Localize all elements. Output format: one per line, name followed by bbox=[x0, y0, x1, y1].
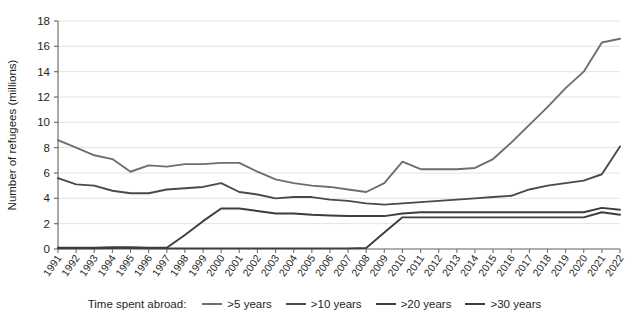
legend-entry-gt30[interactable]: >30 years bbox=[465, 298, 541, 310]
x-tick-label: 2021 bbox=[584, 252, 607, 278]
legend-entry-gt5[interactable]: >5 years bbox=[202, 298, 271, 310]
x-tick-label: 2019 bbox=[548, 252, 571, 278]
y-tick-label: 6 bbox=[44, 167, 50, 179]
x-tick-label: 2009 bbox=[367, 252, 390, 278]
x-tick-label: 2020 bbox=[566, 252, 589, 278]
x-tick-label: 1998 bbox=[167, 252, 190, 278]
x-tick-label: 1992 bbox=[59, 252, 82, 278]
x-tick-label: 1995 bbox=[113, 252, 136, 278]
x-tick-label: 2007 bbox=[330, 252, 353, 278]
legend-label-gt20: >20 years bbox=[401, 298, 452, 310]
y-tick-label: 10 bbox=[37, 116, 50, 128]
x-tick-label: 2010 bbox=[385, 252, 408, 278]
x-axis: 1991199219931994199519961997199819992000… bbox=[40, 249, 625, 278]
y-tick-label: 14 bbox=[37, 66, 50, 78]
legend-entry-gt10[interactable]: >10 years bbox=[286, 298, 362, 310]
x-tick-label: 2006 bbox=[312, 252, 335, 278]
y-axis-title-text: Number of refugees (millions) bbox=[6, 59, 18, 210]
x-tick-label: 2012 bbox=[421, 252, 444, 278]
x-tick-label: 2002 bbox=[240, 252, 263, 278]
y-tick-label: 12 bbox=[37, 91, 50, 103]
y-tick-label: 4 bbox=[44, 192, 51, 204]
chart-root: 024681012141618 199119921993199419951996… bbox=[0, 0, 629, 320]
series-line-20years bbox=[58, 208, 620, 248]
x-tick-label: 2013 bbox=[439, 252, 462, 278]
legend-swatch-gt20 bbox=[376, 303, 396, 305]
x-tick-label: 2011 bbox=[403, 252, 426, 278]
x-tick-label: 2018 bbox=[530, 252, 553, 278]
x-tick-label: 2016 bbox=[494, 252, 517, 278]
series-line-10years bbox=[58, 146, 620, 204]
y-axis: 024681012141618 bbox=[37, 15, 58, 255]
legend-label-gt5: >5 years bbox=[227, 298, 271, 310]
y-tick-label: 18 bbox=[37, 15, 50, 27]
x-tick-label: 1991 bbox=[40, 252, 63, 278]
series-lines bbox=[58, 39, 620, 249]
x-tick-label: 1994 bbox=[95, 252, 118, 278]
x-tick-label: 2005 bbox=[294, 252, 317, 278]
x-tick-label: 1996 bbox=[131, 252, 154, 278]
x-tick-label: 2003 bbox=[258, 252, 281, 278]
x-tick-label: 2004 bbox=[276, 252, 299, 278]
chart-legend: Time spent abroad: >5 years >10 years >2… bbox=[0, 288, 629, 320]
x-tick-label: 1993 bbox=[77, 252, 100, 278]
x-tick-label: 2015 bbox=[476, 252, 499, 278]
y-tick-label: 2 bbox=[44, 218, 50, 230]
y-tick-label: 0 bbox=[44, 243, 50, 255]
legend-swatch-gt30 bbox=[465, 303, 485, 305]
chart-svg: 024681012141618 199119921993199419951996… bbox=[0, 0, 629, 288]
legend-label-gt10: >10 years bbox=[311, 298, 362, 310]
x-tick-label: 2008 bbox=[349, 252, 372, 278]
legend-entry-gt20[interactable]: >20 years bbox=[376, 298, 452, 310]
x-tick-label: 1997 bbox=[149, 252, 172, 278]
legend-title: Time spent abroad: bbox=[88, 298, 187, 310]
y-tick-label: 8 bbox=[44, 142, 50, 154]
series-line-5years bbox=[58, 39, 620, 192]
y-axis-title: Number of refugees (millions) bbox=[6, 59, 18, 210]
series-line-30years bbox=[58, 212, 620, 248]
x-tick-label: 2022 bbox=[602, 252, 625, 278]
line-chart: 024681012141618 199119921993199419951996… bbox=[0, 0, 629, 288]
x-tick-label: 2001 bbox=[222, 252, 245, 278]
x-tick-label: 2017 bbox=[512, 252, 535, 278]
y-tick-label: 16 bbox=[37, 40, 50, 52]
x-tick-label: 2000 bbox=[204, 252, 227, 278]
legend-label-gt30: >30 years bbox=[490, 298, 541, 310]
legend-swatch-gt5 bbox=[202, 303, 222, 305]
x-tick-label: 1999 bbox=[185, 252, 208, 278]
x-tick-label: 2014 bbox=[457, 252, 480, 278]
legend-swatch-gt10 bbox=[286, 303, 306, 305]
